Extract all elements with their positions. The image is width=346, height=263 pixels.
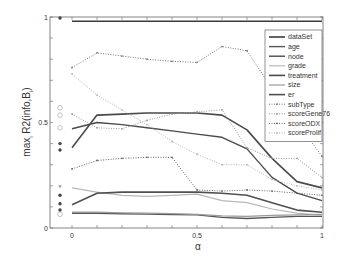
series-point (246, 147, 248, 149)
series-point (221, 190, 223, 192)
series-point (221, 109, 223, 111)
series-point (196, 61, 198, 63)
series-point (296, 157, 298, 159)
svg-text:maxi R2(info,Bi): maxi R2(info,Bi) (21, 87, 34, 156)
marker-filled-circle (58, 16, 61, 19)
legend-label-grade: grade (288, 62, 306, 70)
series-point (171, 113, 173, 115)
series-point (71, 168, 73, 170)
marker-filled-circle (58, 148, 61, 151)
series-point (196, 111, 198, 113)
legend-label-treatment: treatment (288, 72, 318, 79)
series-point (246, 164, 248, 166)
y-axis-label: maxi R2(info,Bi) (21, 87, 34, 156)
series-point (96, 52, 98, 54)
series-point (146, 124, 148, 126)
legend-label-scoreprolif: scoreProlif (288, 129, 321, 136)
series-point (146, 156, 148, 158)
y-tick-label: 0 (44, 225, 48, 232)
series-point (196, 153, 198, 155)
y-tick-label: 0.5 (38, 119, 48, 126)
legend-marker (276, 103, 278, 105)
legend-marker (276, 113, 278, 115)
x-tick-label: 0.5 (192, 232, 202, 239)
series-point (71, 67, 73, 69)
legend-label-age: age (288, 43, 300, 51)
legend-label-size: size (288, 81, 301, 88)
legend-label-dataset: dataSet (288, 33, 312, 40)
legend-label-node: node (288, 53, 304, 60)
series-point (146, 58, 148, 60)
series-point (196, 189, 198, 191)
series-point (96, 94, 98, 96)
series-point (221, 164, 223, 166)
series-point (246, 189, 248, 191)
marker-filled-circle (58, 194, 61, 197)
line-chart: 00.5100.51 dataSetagenodegradetreatments… (0, 0, 346, 263)
series-point (221, 46, 223, 48)
legend-marker (276, 123, 278, 125)
series-point (321, 176, 323, 178)
marker-filled-circle (58, 208, 61, 211)
series-point (171, 156, 173, 158)
x-axis-label: α (195, 241, 201, 252)
y-label-rest: R2(info,B (21, 92, 32, 137)
y-label-main: max (21, 138, 32, 157)
series-point (271, 179, 273, 181)
series-point (171, 60, 173, 62)
series-point (321, 155, 323, 157)
marker-filled-circle (58, 142, 61, 145)
legend-label-scoregene76: scoreGene76 (288, 110, 330, 117)
series-point (171, 141, 173, 143)
legend-marker (276, 132, 278, 134)
series-point (146, 119, 148, 121)
legend: dataSetagenodegradetreatmentsizeersubTyp… (265, 30, 330, 142)
series-point (71, 113, 73, 115)
legend-label-subtype: subType (288, 101, 315, 109)
series-point (271, 157, 273, 159)
x-tick-label: 1 (320, 232, 324, 239)
series-point (96, 127, 98, 129)
x-tick-label: 0 (70, 232, 74, 239)
series-point (121, 55, 123, 57)
series-point (96, 160, 98, 162)
series-point (296, 185, 298, 187)
series-point (246, 50, 248, 52)
series-point (321, 194, 323, 196)
legend-label-scoreodx: scoreODX (288, 120, 321, 127)
series-point (321, 189, 323, 191)
legend-label-er: er (288, 91, 295, 98)
y-label-end: ) (21, 87, 32, 90)
y-tick-label: 1 (44, 14, 48, 21)
series-point (296, 192, 298, 194)
series-point (71, 73, 73, 75)
series-point (121, 157, 123, 159)
series-point (271, 190, 273, 192)
series-point (121, 128, 123, 130)
marker-filled-circle (58, 202, 61, 205)
series-point (121, 109, 123, 111)
